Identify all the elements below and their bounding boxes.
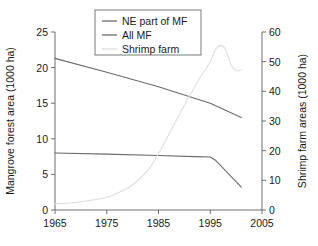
chart-svg: 1965197519851995200505101520250102030405… (0, 0, 318, 246)
x-tick-label: 1965 (43, 217, 67, 229)
y2-tick-label: 10 (269, 174, 281, 186)
series-line-shrimp-farm (55, 45, 241, 204)
y-tick-label: 20 (36, 62, 48, 74)
x-tick-label: 1995 (199, 217, 223, 229)
y-tick-label: 0 (42, 204, 48, 216)
y-tick-label: 15 (36, 97, 48, 109)
y-tick-label: 10 (36, 133, 48, 145)
chart-figure: 1965197519851995200505101520250102030405… (0, 0, 318, 246)
left-bottom-axis (55, 32, 262, 210)
y2-tick-label: 60 (269, 26, 281, 38)
y2-tick-label: 50 (269, 56, 281, 68)
y2-axis-title: Shrimp farm areas (1000 ha) (296, 54, 308, 188)
y-tick-label: 5 (42, 168, 48, 180)
y-tick-label: 25 (36, 26, 48, 38)
legend-label-shrimp-farm: Shrimp farm (122, 43, 179, 55)
x-tick-label: 1975 (95, 217, 119, 229)
x-tick-label: 2005 (250, 217, 274, 229)
x-tick-label: 1985 (147, 217, 171, 229)
y2-tick-label: 0 (269, 204, 275, 216)
legend-label-ne-part-of-mf: NE part of MF (122, 15, 187, 27)
legend-label-all-mf: All MF (122, 29, 152, 41)
y-axis-title: Mangrove forest area (1000 ha) (4, 47, 16, 195)
y2-tick-label: 40 (269, 85, 281, 97)
y2-tick-label: 30 (269, 115, 281, 127)
series-line-all-mf (55, 58, 241, 117)
y2-tick-label: 20 (269, 145, 281, 157)
